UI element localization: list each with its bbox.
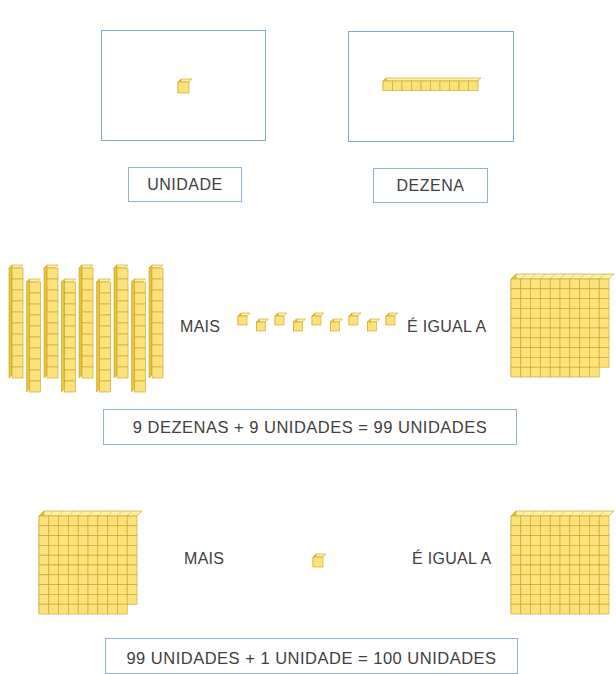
ten-rod-icon	[382, 77, 482, 92]
nine-units-icon	[237, 312, 414, 340]
unidade-frame	[101, 30, 266, 141]
unit-cube-icon	[177, 78, 193, 94]
nine-rods-icon	[8, 264, 186, 397]
unidade-label: UNIDADE	[128, 167, 242, 202]
flat-99-icon	[510, 273, 615, 378]
equation-text-1: 9 DEZENAS + 9 UNIDADES = 99 UNIDADES	[133, 418, 488, 437]
dezena-label-text: DEZENA	[397, 177, 465, 195]
dezena-frame	[348, 31, 514, 142]
equation-text-2: 99 UNIDADES + 1 UNIDADE = 100 UNIDADES	[126, 649, 496, 668]
equals-word: É IGUAL A	[407, 318, 486, 336]
flat-100-icon	[510, 510, 615, 615]
equation-box-1: 9 DEZENAS + 9 UNIDADES = 99 UNIDADES	[103, 409, 517, 445]
dezena-label: DEZENA	[373, 168, 488, 203]
plus-word: MAIS	[184, 550, 224, 568]
unidade-label-text: UNIDADE	[147, 176, 223, 194]
flat-99-icon	[38, 510, 143, 615]
equals-word: É IGUAL A	[412, 550, 491, 568]
plus-word: MAIS	[180, 318, 220, 336]
unit-cube-icon	[312, 553, 327, 568]
equation-box-2: 99 UNIDADES + 1 UNIDADE = 100 UNIDADES	[105, 638, 518, 674]
